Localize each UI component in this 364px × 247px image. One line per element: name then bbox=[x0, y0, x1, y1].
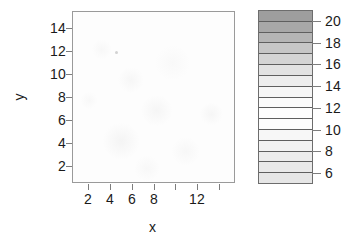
color-legend-tick-label: 6 bbox=[325, 166, 333, 180]
color-legend-band bbox=[259, 22, 312, 33]
x-axis-title: x bbox=[0, 219, 305, 235]
color-legend-band bbox=[259, 87, 312, 98]
color-legend-tick-label: 8 bbox=[325, 144, 333, 158]
x-axis-tick-label: 8 bbox=[150, 192, 158, 206]
color-legend-band bbox=[259, 162, 312, 173]
y-axis-tick bbox=[66, 51, 72, 52]
x-axis-tick bbox=[219, 184, 220, 190]
x-axis-tick-label: 2 bbox=[84, 192, 92, 206]
color-legend-tick-label: 12 bbox=[325, 101, 341, 115]
color-legend-band bbox=[259, 141, 312, 152]
color-legend-tick bbox=[312, 43, 321, 44]
y-axis-tick-label: 2 bbox=[58, 159, 66, 173]
color-legend-tick-label: 20 bbox=[325, 14, 341, 28]
color-legend-tick-label: 14 bbox=[325, 79, 341, 93]
heatmap-hotspot-marker bbox=[115, 51, 118, 54]
color-legend-tick bbox=[312, 151, 321, 152]
color-legend-band bbox=[259, 54, 312, 65]
color-legend-band bbox=[259, 43, 312, 54]
x-axis-tick bbox=[88, 184, 89, 190]
x-axis-tick bbox=[197, 184, 198, 190]
y-axis-tick-label: 4 bbox=[58, 136, 66, 150]
x-axis-tick bbox=[110, 184, 111, 190]
y-axis-tick-label: 10 bbox=[50, 67, 66, 81]
x-axis-tick bbox=[154, 184, 155, 190]
color-legend-band bbox=[259, 11, 312, 22]
plot-panel bbox=[72, 11, 235, 183]
y-axis-tick-label: 6 bbox=[58, 113, 66, 127]
color-legend-tick bbox=[312, 173, 321, 174]
color-legend-tick-label: 18 bbox=[325, 36, 341, 50]
color-legend-tick bbox=[312, 130, 321, 131]
color-legend-band bbox=[259, 119, 312, 130]
color-legend-band bbox=[259, 173, 312, 183]
color-legend-tick-label: 10 bbox=[325, 123, 341, 137]
color-legend-bar bbox=[258, 10, 313, 184]
x-axis-tick bbox=[132, 184, 133, 190]
y-axis-tick-label: 14 bbox=[50, 21, 66, 35]
x-axis-tick bbox=[175, 184, 176, 190]
color-legend-tick bbox=[312, 64, 321, 65]
y-axis-tick-label: 12 bbox=[50, 44, 66, 58]
color-legend-band bbox=[259, 152, 312, 163]
color-legend-band bbox=[259, 33, 312, 44]
y-axis-tick bbox=[66, 166, 72, 167]
color-legend-tick bbox=[312, 108, 321, 109]
x-axis-tick-label: 4 bbox=[106, 192, 114, 206]
color-legend-tick bbox=[312, 86, 321, 87]
y-axis-tick bbox=[66, 28, 72, 29]
color-legend-band bbox=[259, 76, 312, 87]
y-axis-tick-label: 8 bbox=[58, 90, 66, 104]
y-axis-tick bbox=[66, 97, 72, 98]
y-axis-tick bbox=[66, 74, 72, 75]
x-axis-tick-label: 6 bbox=[128, 192, 136, 206]
levelplot-figure: 1412108642 246812 y x 20181614121086 bbox=[0, 0, 364, 247]
y-axis-tick bbox=[66, 120, 72, 121]
color-legend-tick bbox=[312, 21, 321, 22]
color-legend-band bbox=[259, 65, 312, 76]
color-legend-tick-label: 16 bbox=[325, 57, 341, 71]
y-axis-title: y bbox=[11, 80, 27, 114]
color-legend-band bbox=[259, 130, 312, 141]
x-axis-tick-label: 12 bbox=[189, 192, 205, 206]
color-legend-band bbox=[259, 108, 312, 119]
heatmap-surface bbox=[73, 12, 234, 182]
color-legend-band bbox=[259, 98, 312, 109]
y-axis-tick bbox=[66, 143, 72, 144]
